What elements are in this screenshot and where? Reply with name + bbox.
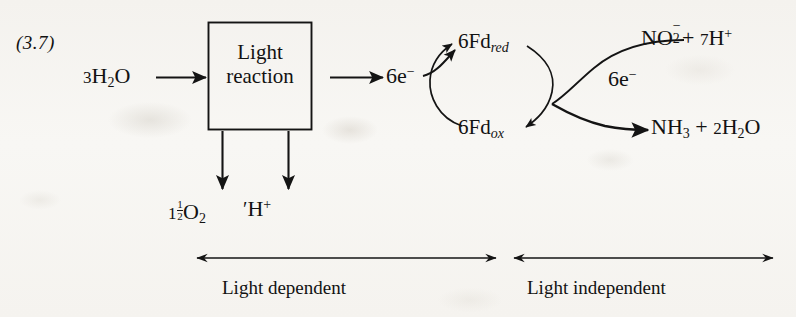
- product-water: H: [722, 114, 738, 139]
- proton-charge: +: [263, 197, 271, 212]
- oxygen-whole: 1: [168, 204, 177, 223]
- ammonia-formula: NH: [651, 114, 683, 139]
- arrow-fdox-to-fdred: [430, 44, 462, 126]
- oxygen-fraction-denominator: 2: [177, 211, 183, 222]
- oxygen-fraction: 12: [177, 199, 183, 222]
- label-ferredoxin-oxidised: 6Fdox: [458, 117, 504, 141]
- product-water-subscript: 2: [738, 126, 745, 141]
- fdox-count: 6: [458, 115, 469, 139]
- nitrite-subscript: 2: [673, 32, 680, 46]
- electrons-count: 6: [386, 63, 397, 88]
- oxygen-fraction-numerator: 1: [177, 199, 183, 210]
- nitrite-formula: NO: [641, 25, 673, 50]
- label-nitrite-substrate: NO−2+ 7H+: [641, 23, 732, 49]
- label-ammonia-product: NH3 + 2H2O: [651, 116, 760, 141]
- label-proton-output: ′H+: [243, 198, 271, 220]
- arrow-ammonia-outflow: [552, 104, 648, 130]
- proton-formula: H: [247, 196, 263, 221]
- fdred-name: Fd: [469, 29, 491, 53]
- electrons-species: e: [397, 63, 407, 88]
- label-electrons-out: 6e−: [386, 65, 415, 87]
- ammonia-subscript: 3: [683, 126, 690, 141]
- label-water-input: 3H2O: [83, 65, 130, 90]
- light-reaction-label: Light reaction: [208, 40, 312, 88]
- fdred-count: 6: [458, 29, 469, 53]
- electrons-charge: −: [407, 64, 415, 79]
- water-tail: O: [114, 63, 130, 88]
- label-oxygen-output: 112O2: [168, 198, 206, 226]
- fdox-name: Fd: [469, 115, 491, 139]
- equation-number: (3.7): [16, 33, 55, 52]
- oxygen-formula: O: [183, 199, 199, 224]
- arrow-electrons-to-fdred: [423, 50, 455, 76]
- water-coefficient: 3: [83, 68, 92, 87]
- light-reaction-line2: reaction: [208, 64, 312, 88]
- nitrite-proton-charge: +: [724, 26, 732, 41]
- product-water-tail: O: [745, 114, 761, 139]
- oxygen-subscript: 2: [199, 211, 206, 226]
- figure-canvas: (3.7) 3H2O Light reaction 6e− 112O2 ′H+ …: [0, 0, 796, 317]
- nitrite-plus: +: [682, 25, 694, 50]
- light-reaction-line1: Light: [208, 40, 312, 64]
- label-electron-transfer: 6e−: [608, 68, 637, 90]
- label-ferredoxin-reduced: 6Fdred: [458, 31, 509, 55]
- nitrite-charge-stack: −2: [673, 23, 682, 45]
- caption-light-independent: Light independent: [527, 278, 666, 297]
- nitrite-proton: H: [708, 25, 724, 50]
- transfer-species: e: [619, 66, 629, 91]
- arrow-fdred-to-fdox: [526, 46, 553, 127]
- caption-light-dependent: Light dependent: [222, 278, 346, 297]
- transfer-charge: −: [629, 67, 637, 82]
- water-formula: H: [92, 63, 108, 88]
- ammonia-plus: +: [695, 114, 707, 139]
- fdred-state: red: [491, 40, 509, 55]
- transfer-count: 6: [608, 66, 619, 91]
- fdox-state: ox: [491, 126, 504, 141]
- product-water-coefficient: 2: [713, 119, 722, 138]
